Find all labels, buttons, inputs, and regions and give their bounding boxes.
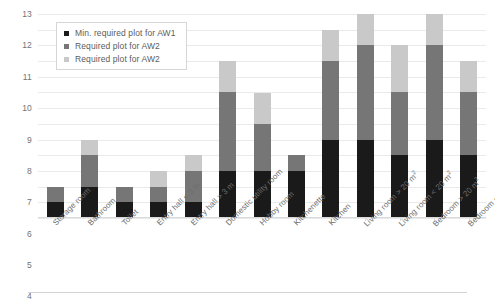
y-axis-tick-label: 11 bbox=[23, 72, 32, 82]
bar-segment[interactable] bbox=[357, 14, 374, 45]
bar-segment[interactable] bbox=[426, 45, 443, 139]
y-axis-tick-label: 9 bbox=[27, 135, 32, 145]
legend-item-label: Required plot for AW2 bbox=[75, 54, 160, 64]
bar-segment[interactable] bbox=[47, 187, 64, 203]
bar-segment[interactable] bbox=[254, 93, 271, 124]
bar-segment[interactable] bbox=[81, 140, 98, 156]
bar-segment[interactable] bbox=[357, 45, 374, 139]
footer-divider bbox=[28, 292, 467, 293]
y-axis-tick-label: 7 bbox=[27, 197, 32, 207]
y-axis-tick-label: 13 bbox=[22, 9, 32, 19]
legend-item: Required plot for AW2 bbox=[64, 54, 176, 64]
bar-segment[interactable] bbox=[391, 92, 408, 155]
bar-segment[interactable] bbox=[150, 171, 167, 187]
bar-segment[interactable] bbox=[426, 14, 443, 45]
bar-segment[interactable] bbox=[219, 92, 236, 170]
legend-swatch-icon bbox=[64, 31, 69, 36]
bar-segment[interactable] bbox=[150, 187, 167, 203]
bar-segment[interactable] bbox=[288, 155, 305, 171]
x-axis-labels: Storage roomBathroomToiletEntry hall < 3… bbox=[38, 221, 486, 297]
bar-segment[interactable] bbox=[357, 140, 374, 218]
legend-swatch-icon bbox=[64, 44, 69, 49]
bar-segment[interactable] bbox=[460, 61, 477, 92]
bar-segment[interactable] bbox=[322, 140, 339, 218]
chart-legend: Min. required plot for AW1 Required plot… bbox=[56, 22, 187, 70]
bar-segment[interactable] bbox=[322, 30, 339, 61]
bar-group[interactable] bbox=[357, 14, 374, 218]
legend-item: Required plot for AW2 bbox=[64, 41, 176, 51]
bar-segment[interactable] bbox=[81, 155, 98, 186]
stacked-bar-chart: 012345678910111213 Storage roomBathroomT… bbox=[0, 0, 495, 305]
bar-segment[interactable] bbox=[460, 92, 477, 155]
legend-item-label: Required plot for AW2 bbox=[75, 41, 160, 51]
y-axis-tick-label: 5 bbox=[27, 260, 32, 270]
y-axis-tick-label: 6 bbox=[27, 229, 32, 239]
y-axis-tick-label: 12 bbox=[22, 40, 32, 50]
bar-segment[interactable] bbox=[185, 155, 202, 171]
bar-segment[interactable] bbox=[219, 61, 236, 92]
bar-segment[interactable] bbox=[116, 187, 133, 203]
bar-group[interactable] bbox=[81, 140, 98, 218]
bar-segment[interactable] bbox=[391, 45, 408, 92]
y-axis-tick-label: 10 bbox=[22, 103, 32, 113]
bar-segment[interactable] bbox=[254, 124, 271, 171]
bar-segment[interactable] bbox=[322, 61, 339, 139]
bar-group[interactable] bbox=[288, 155, 305, 218]
legend-item-label: Min. required plot for AW1 bbox=[75, 28, 176, 38]
bar-group[interactable] bbox=[322, 30, 339, 218]
legend-swatch-icon bbox=[64, 57, 69, 62]
legend-item: Min. required plot for AW1 bbox=[64, 28, 176, 38]
y-axis-tick-label: 8 bbox=[27, 166, 32, 176]
